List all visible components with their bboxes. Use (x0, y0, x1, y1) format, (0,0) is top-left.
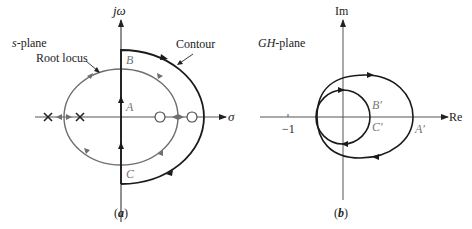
root-locus-arrow-icon (157, 73, 163, 79)
contour-arrow-icon (118, 96, 124, 103)
nyquist-diagram: jω σ s-plane Root locus Contour B A C (a… (0, 0, 472, 229)
zero-o-icon (155, 112, 165, 122)
s-plane-label: s-plane (12, 36, 47, 50)
curve-arrow-icon (341, 141, 348, 147)
root-locus-arrow-icon (84, 148, 90, 154)
panel-b-gh-plane: Im Re GH-plane −1 B′ C′ A′ (b) (258, 4, 462, 220)
jw-axis-label: jω (111, 3, 126, 18)
curve-arrow-icon (367, 72, 374, 78)
point-c-label: C (126, 167, 135, 181)
point-c-prime-label: C′ (372, 120, 383, 134)
minus-one-label: −1 (282, 122, 295, 136)
sigma-axis-label: σ (228, 109, 235, 124)
point-a-label: A (125, 100, 134, 114)
gh-plane-label: GH-plane (258, 36, 305, 50)
root-locus-label: Root locus (36, 51, 88, 65)
panel-a-caption: (a) (114, 206, 128, 220)
contour-label: Contour (176, 37, 215, 51)
contour-arrow-icon (160, 54, 168, 60)
real-axis-arrow-icon (172, 114, 178, 120)
point-a-prime-label: A′ (414, 122, 425, 136)
panel-b-caption: (b) (334, 206, 348, 220)
contour-leader (180, 54, 193, 63)
real-axis-arrow-icon (178, 114, 184, 120)
real-axis-arrow-icon (66, 114, 72, 120)
curve-arrow-icon (372, 154, 379, 160)
re-axis-label: Re (449, 110, 462, 124)
contour-arrow-icon (118, 142, 124, 149)
panel-a-s-plane: jω σ s-plane Root locus Contour B A C (a… (12, 3, 235, 222)
point-b-label: B (126, 53, 134, 67)
zero-o-icon (187, 112, 197, 122)
point-b-prime-label: B′ (372, 98, 382, 112)
leader-arrow-icon (177, 60, 183, 65)
curve-arrow-icon (338, 87, 345, 93)
im-axis-label: Im (335, 4, 349, 18)
real-axis-arrow-icon (56, 114, 62, 120)
